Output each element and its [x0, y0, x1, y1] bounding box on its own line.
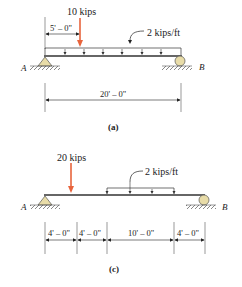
roller-support-icon	[162, 56, 192, 70]
support-label-b: B	[199, 62, 205, 72]
dim-c-3: 10' – 0"	[128, 228, 154, 238]
caption-c: (c)	[109, 264, 119, 274]
point-load-label-a: 10 kips	[67, 6, 96, 17]
beam-diagrams: 10 kips 5' – 0" 2 kips/ft	[0, 0, 242, 287]
distributed-load-c	[106, 182, 176, 194]
support-label-a: A	[20, 202, 27, 212]
support-label-a: A	[20, 63, 27, 73]
roller-support-icon	[186, 195, 216, 209]
distributed-load-label-a: 2 kips/ft	[147, 27, 180, 38]
dim-c-1: 4' – 0"	[48, 228, 70, 238]
diagram-c: 20 kips 2 kips/ft A	[20, 152, 228, 274]
distributed-load-label-c: 2 kips/ft	[145, 166, 178, 177]
point-load-arrow-icon	[77, 18, 83, 47]
dim-c-4: 4' – 0"	[177, 228, 199, 238]
point-load-arrow-icon	[68, 163, 74, 193]
support-label-b: B	[222, 202, 228, 212]
distributed-load-a	[45, 48, 181, 55]
pin-support-icon	[30, 196, 60, 209]
diagram-a: 10 kips 5' – 0" 2 kips/ft	[20, 6, 205, 132]
point-load-label-c: 20 kips	[57, 152, 86, 163]
caption-a: (a)	[108, 122, 119, 132]
pin-support-icon	[30, 57, 60, 70]
dim-span-a: 20' – 0"	[100, 89, 126, 99]
dim-c-2: 4' – 0"	[79, 228, 101, 238]
dim-load-position-a: 5' – 0"	[50, 23, 72, 33]
